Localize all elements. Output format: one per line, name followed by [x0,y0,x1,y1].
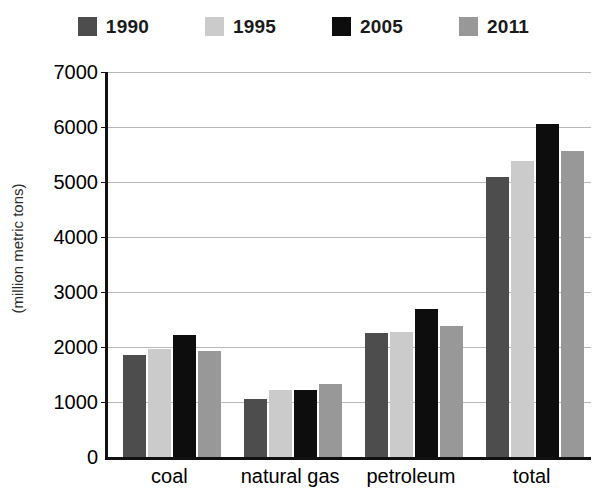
x-axis-tick-label: petroleum [366,465,455,488]
y-axis-tick-mark [101,237,108,238]
y-axis-tick-label: 0 [87,446,98,469]
y-axis-tick-mark [101,292,108,293]
bar-group [486,72,584,457]
y-axis-tick-label: 7000 [54,61,99,84]
legend-swatch-icon [332,17,351,36]
y-axis-tick-label: 6000 [54,116,99,139]
y-axis-tick-label: 1000 [54,391,99,414]
legend-item: 1995 [205,17,276,36]
y-axis-tick-label: 4000 [54,226,99,249]
bar-chart: (million metric tons) 700060005000400030… [0,52,607,500]
bar [486,177,509,458]
bar [123,355,146,457]
bar [365,333,388,457]
bar-group [365,72,463,457]
bar [511,161,534,457]
legend-label: 2005 [360,17,403,36]
bar [173,335,196,457]
legend-item: 1990 [78,17,149,36]
bar [244,399,267,457]
bar [415,309,438,458]
bar-series-container [108,72,591,457]
bar [390,332,413,457]
y-axis-tick-label: 3000 [54,281,99,304]
y-axis-tick-mark [101,182,108,183]
x-axis-tick-label: total [513,465,551,488]
y-axis-tick-mark [101,347,108,348]
legend-item: 2011 [459,17,529,36]
y-axis-tick-mark [101,127,108,128]
bar [148,349,171,457]
bar [536,124,559,457]
legend-label: 1990 [106,17,149,36]
legend-swatch-icon [205,17,224,36]
bar [269,390,292,457]
bar [561,151,584,457]
legend-swatch-icon [78,17,97,36]
legend-label: 2011 [487,17,529,36]
chart-legend: 1990199520052011 [0,10,607,42]
bar [198,351,221,457]
plot-area [105,72,591,460]
legend-swatch-icon [459,17,478,36]
bar-group [244,72,342,457]
y-axis-tick-mark [101,72,108,73]
x-axis-tick-label: natural gas [241,465,340,488]
bar [440,326,463,457]
bar [319,384,342,457]
x-axis-tick-labels: coalnatural gaspetroleumtotal [105,465,588,499]
y-axis-tick-labels: 70006000500040003000200010000 [20,52,98,457]
x-axis-tick-label: coal [151,465,188,488]
legend-label: 1995 [233,17,276,36]
y-axis-tick-label: 5000 [54,171,99,194]
y-axis-tick-label: 2000 [54,336,99,359]
bar [294,390,317,457]
y-axis-tick-mark [101,402,108,403]
bar-group [123,72,221,457]
legend-item: 2005 [332,17,403,36]
